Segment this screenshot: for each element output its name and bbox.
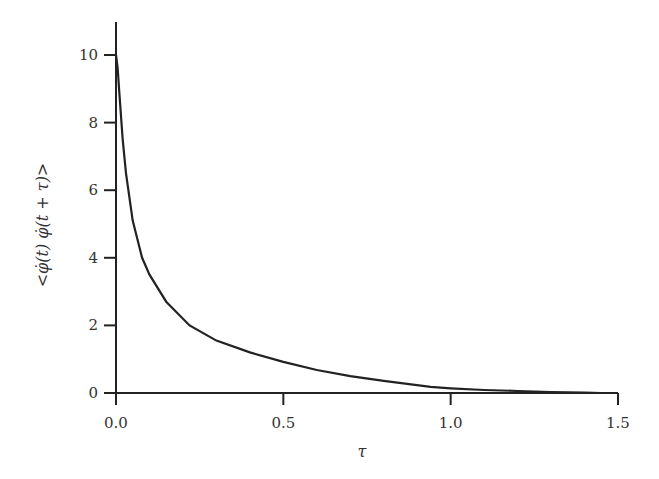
x-tick-label: 0.0 xyxy=(104,414,128,432)
y-ticks: 0246810 xyxy=(79,46,116,402)
y-tick-label: 2 xyxy=(88,316,98,334)
y-tick-label: 0 xyxy=(88,384,98,402)
y-tick-label: 4 xyxy=(88,249,98,267)
x-tick-label: 1.0 xyxy=(439,414,463,432)
x-ticks: 0.00.51.01.5 xyxy=(104,393,630,432)
x-tick-label: 0.5 xyxy=(271,414,295,432)
x-axis-label: τ xyxy=(358,442,368,461)
chart: 0246810 0.00.51.01.5 τ <φ̇(t) φ̇(t + τ)> xyxy=(0,0,659,479)
x-tick-label: 1.5 xyxy=(606,414,630,432)
axes xyxy=(104,22,618,405)
y-tick-label: 6 xyxy=(88,181,98,199)
y-axis-label: <φ̇(t) φ̇(t + τ)> xyxy=(33,163,52,288)
y-tick-label: 10 xyxy=(79,46,98,64)
y-tick-label: 8 xyxy=(88,114,98,132)
data-line xyxy=(116,55,601,393)
